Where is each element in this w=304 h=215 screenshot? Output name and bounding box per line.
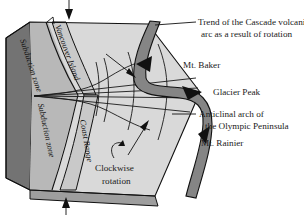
trend-leader-line (155, 22, 196, 25)
mt-baker-label: Mt. Baker (183, 60, 220, 70)
clockwise-label-line1: Clockwise (95, 163, 134, 173)
mt-rainier-label: Mt. Rainier (201, 138, 243, 148)
clockwise-label-line2: rotation (102, 176, 131, 186)
arrow-down-icon (65, 9, 73, 20)
glacier-peak-label: Glacier Peak (213, 87, 261, 97)
anticlinal-label-line2: the Olympic Peninsula (205, 121, 289, 131)
diagram-canvas: Trend of the Cascade volcanic arc as a r… (0, 0, 304, 215)
trend-label-line1: Trend of the Cascade volcanic (198, 17, 304, 27)
anticlinal-label-line1: Anticlinal arch of (199, 109, 265, 119)
block-diagram-figure: Trend of the Cascade volcanic arc as a r… (0, 0, 304, 215)
trend-label-line2: arc as a result of rotation (201, 29, 292, 39)
